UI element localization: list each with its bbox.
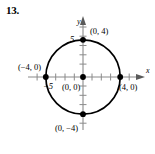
point-4-0 <box>117 74 123 80</box>
point-0-4 <box>80 37 86 43</box>
y-axis-arrow-icon <box>80 16 86 25</box>
point-0-0 <box>80 74 86 80</box>
point-label-0-4: (0, 4) <box>90 26 109 36</box>
coordinate-plane: y x 5 −5 (0, 4) (4, 0) (0, 0) (−4, 0) (0… <box>0 0 155 154</box>
figure-container: 13. <box>0 0 155 154</box>
point-label-neg4-0: (−4, 0) <box>18 62 41 72</box>
graph-svg: y x 5 −5 (0, 4) (4, 0) (0, 0) (−4, 0) (0… <box>0 0 155 154</box>
y-tick-label-5: 5 <box>70 34 74 44</box>
point-label-0-0: (0, 0) <box>62 82 81 92</box>
point-neg4-0 <box>43 74 49 80</box>
x-axis-arrow-icon <box>136 74 145 80</box>
y-axis-label: y <box>76 17 81 26</box>
x-tick-label-neg5: −5 <box>43 81 53 91</box>
point-0-neg4 <box>80 111 86 117</box>
point-label-0-neg4: (0, −4) <box>55 123 78 133</box>
x-axis-label: x <box>145 66 150 75</box>
point-label-4-0: (4, 0) <box>119 82 138 92</box>
